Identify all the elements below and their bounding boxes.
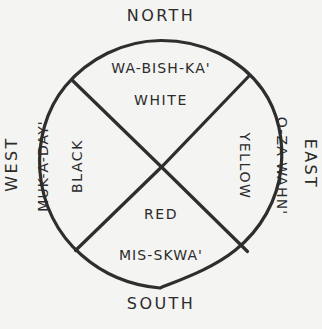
cardinal-label-east: EAST: [302, 132, 318, 196]
quadrant-west-term: MUK-A-DAY': [36, 101, 50, 231]
quadrant-east-color-name: YELLOW: [238, 111, 252, 221]
cardinal-label-north: NORTH: [0, 8, 322, 24]
quadrant-east-term: O-ZA-WAHN': [275, 101, 289, 231]
medicine-wheel-diagram: NORTH SOUTH WEST EAST WA-BISH-KA' WHITE …: [0, 0, 322, 329]
cardinal-label-south: SOUTH: [0, 296, 322, 312]
cardinal-label-west: WEST: [4, 132, 20, 196]
quadrant-north-term: WA-BISH-KA': [0, 61, 322, 75]
quadrant-west-color-name: BLACK: [70, 111, 84, 221]
quadrant-south-term: MIS-SKWA': [0, 248, 322, 262]
